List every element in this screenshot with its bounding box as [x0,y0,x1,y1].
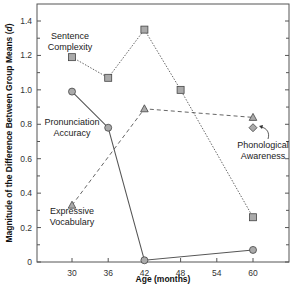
x-tick-label: 54 [212,268,222,278]
label-pronunciation-accuracy-1: Pronunciation [44,117,99,127]
circle-marker-icon [105,124,112,131]
series-pronunciation-accuracy [69,88,257,264]
x-tick-label: 60 [248,268,258,278]
label-expressive-vocabulary-1: Expressive [50,206,94,216]
circle-marker-icon [141,257,148,264]
x-axis-title: Age (months) [136,274,191,284]
x-tick-label: 30 [67,268,77,278]
square-marker-icon [105,74,112,81]
circle-marker-icon [69,88,76,95]
label-sentence-complexity-1: Sentence [51,31,89,41]
x-tick-label: 36 [103,268,113,278]
annotation-arrow [261,127,269,139]
square-marker-icon [177,86,184,93]
y-tick-label: 1.0 [20,85,32,95]
series-phonological-awareness [249,124,257,132]
label-phonological-awareness-2: Awareness [241,151,286,161]
label-sentence-complexity-2: Complexity [48,42,93,52]
y-tick-label: 0.8 [20,119,32,129]
series-group [68,26,257,264]
arrowhead-icon [259,125,263,129]
y-tick-label: 0.6 [20,154,32,164]
diamond-marker-icon [249,124,257,132]
circle-marker-icon [250,246,257,253]
y-tick-label: 0.2 [20,223,32,233]
triangle-marker-icon [141,105,149,112]
label-pronunciation-accuracy-2: Accuracy [53,128,91,138]
label-expressive-vocabulary-2: Vocabulary [50,217,95,227]
y-tick-label: 0.4 [20,188,32,198]
square-marker-icon [141,26,148,33]
chart: 30364248546000.20.40.60.81.01.21.4 Sente… [0,0,295,295]
y-tick-label: 1.4 [20,16,32,26]
label-phonological-awareness-1: Phonological [237,140,289,150]
square-marker-icon [69,54,76,61]
y-tick-label: 0 [27,257,32,267]
square-marker-icon [250,214,257,221]
y-tick-label: 1.2 [20,50,32,60]
y-axis-title: Magnitude of the Difference Between Grou… [4,23,14,242]
